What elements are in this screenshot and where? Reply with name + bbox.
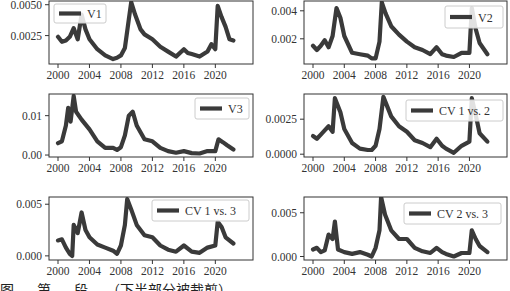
x-tick-label: 2012 (141, 265, 164, 277)
x-tick-label: 2012 (395, 69, 418, 81)
y-tick-label: 0.01 (22, 110, 42, 122)
y-tick-label: 0.002 (271, 33, 297, 45)
x-tick-label: 2000 (302, 162, 325, 174)
y-tick-label: 0.0025 (265, 113, 297, 125)
x-tick-label: 2016 (172, 265, 195, 277)
x-tick-label: 2016 (427, 162, 450, 174)
x-tick-label: 2000 (47, 69, 70, 81)
x-tick-label: 2004 (333, 69, 356, 81)
x-tick-label: 2016 (172, 162, 195, 174)
x-tick-label: 2020 (204, 69, 227, 81)
subplot-1: 2000200420082012201620200.00250.0050V1 (10, 0, 253, 81)
legend-label: CV 2 vs. 3 (437, 207, 488, 221)
x-tick-label: 2008 (364, 69, 387, 81)
legend: CV 2 vs. 3 (404, 203, 501, 224)
legend: CV 1 vs. 2 (406, 100, 503, 121)
x-tick-label: 2008 (109, 162, 132, 174)
subplot-5: 2000200420082012201620200.0000.005CV 1 v… (16, 197, 253, 277)
x-tick-label: 2004 (78, 162, 101, 174)
subplot-2: 2000200420082012201620200.0020.004V2 (271, 1, 507, 81)
y-tick-label: 0.0025 (10, 30, 42, 42)
subplot-3: 2000200420082012201620200.000.01V3 (22, 94, 253, 174)
legend-label: CV 1 vs. 2 (439, 104, 490, 118)
legend: V1 (54, 4, 106, 23)
legend: V3 (195, 98, 249, 119)
legend-label: CV 1 vs. 3 (185, 204, 236, 218)
legend-label: V3 (228, 102, 243, 116)
x-tick-label: 2000 (302, 69, 325, 81)
x-tick-label: 2012 (395, 162, 418, 174)
y-tick-label: 0.005 (16, 198, 42, 210)
y-tick-label: 0.0000 (265, 148, 297, 160)
x-tick-label: 2000 (47, 162, 70, 174)
x-tick-label: 2012 (141, 69, 164, 81)
x-tick-label: 2008 (364, 162, 387, 174)
x-tick-label: 2012 (141, 162, 164, 174)
x-tick-label: 2020 (204, 162, 227, 174)
subplot-4: 2000200420082012201620200.00000.0025CV 1… (265, 94, 507, 174)
chart-grid: 2000200420082012201620200.00250.0050V120… (0, 0, 510, 291)
x-tick-label: 2008 (364, 265, 387, 277)
legend: CV 1 vs. 3 (152, 200, 249, 221)
y-tick-label: 0.0050 (10, 0, 42, 11)
y-tick-label: 0.005 (271, 207, 297, 219)
x-tick-label: 2012 (395, 265, 418, 277)
x-tick-label: 2016 (172, 69, 195, 81)
y-tick-label: 0.00 (22, 149, 42, 161)
legend-label: V1 (87, 7, 102, 21)
x-tick-label: 2004 (333, 162, 356, 174)
x-tick-label: 2008 (109, 265, 132, 277)
x-tick-label: 2020 (458, 69, 481, 81)
y-tick-label: 0.004 (271, 5, 297, 17)
x-tick-label: 2004 (333, 265, 356, 277)
x-tick-label: 2020 (458, 162, 481, 174)
x-tick-label: 2016 (427, 69, 450, 81)
y-tick-label: 0.000 (16, 250, 42, 262)
x-tick-label: 2000 (302, 265, 325, 277)
x-tick-label: 2016 (427, 265, 450, 277)
x-tick-label: 2020 (204, 265, 227, 277)
y-tick-label: 0.000 (271, 251, 297, 263)
x-tick-label: 2004 (78, 265, 101, 277)
legend-label: V2 (478, 11, 493, 25)
subplot-6: 2000200420082012201620200.0000.005CV 2 v… (271, 197, 507, 277)
x-tick-label: 2004 (78, 69, 101, 81)
x-tick-label: 2020 (458, 265, 481, 277)
x-tick-label: 2000 (47, 265, 70, 277)
x-tick-label: 2008 (109, 69, 132, 81)
legend: V2 (445, 6, 503, 28)
figure-caption: 图 … 第 … 段 …（下半部分被裁剪） (0, 283, 510, 291)
